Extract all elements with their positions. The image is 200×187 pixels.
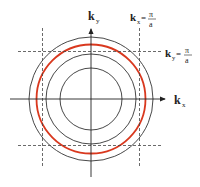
svg-text:k: k: [165, 47, 172, 59]
svg-text:π: π: [185, 46, 189, 55]
ky-label: k: [88, 9, 95, 23]
svg-text:π: π: [149, 10, 153, 19]
kx-boundary-label: k x = π a: [130, 10, 156, 29]
svg-text:k: k: [130, 11, 137, 23]
svg-text:=: =: [141, 13, 146, 23]
kx-label: k: [174, 93, 181, 107]
fermi-surface-diagram: k y k x k x = π a k y = π a: [0, 0, 200, 187]
ky-boundary-label: k y = π a: [165, 46, 192, 65]
kx-label-sub: x: [182, 101, 186, 109]
svg-text:a: a: [149, 20, 153, 29]
svg-text:a: a: [185, 56, 189, 65]
ky-label-sub: y: [96, 17, 100, 25]
svg-text:=: =: [176, 49, 181, 59]
